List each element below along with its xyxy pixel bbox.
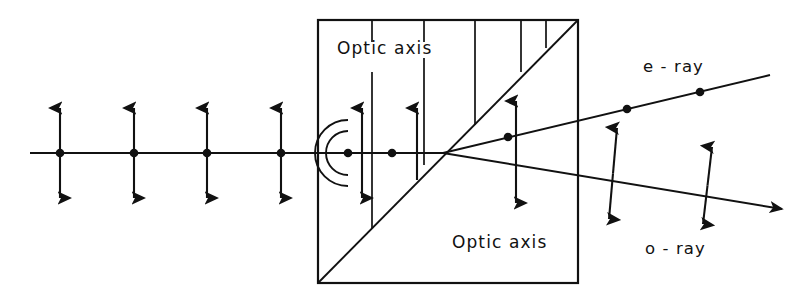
crystal-interior-group bbox=[348, 108, 443, 198]
optic-axis-label-bottom: Optic axis bbox=[452, 232, 547, 252]
o-ray-polarization-arrow-2 bbox=[703, 147, 712, 224]
e-ray-dot-3 bbox=[696, 88, 705, 97]
unpolarized-marker-4 bbox=[277, 108, 286, 198]
double-refraction-figure: Optic axis Optic axis e - ray o - ray bbox=[0, 0, 801, 302]
e-ray-dot-2 bbox=[623, 105, 632, 114]
incident-ray-group bbox=[30, 108, 348, 198]
o-ray-polarization-arrow-2-head-b bbox=[703, 186, 708, 225]
unpolarized-marker-3-dot bbox=[203, 149, 212, 158]
unpolarized-marker-4-dot bbox=[277, 149, 286, 158]
internal-ray-dot bbox=[388, 149, 397, 158]
o-ray-polarization-arrow-1 bbox=[609, 128, 617, 219]
unpolarized-marker-3 bbox=[203, 108, 212, 198]
e-ray-path bbox=[443, 75, 770, 153]
exit-rays-group bbox=[443, 75, 782, 224]
o-ray-label: o - ray bbox=[645, 239, 706, 258]
exit-polarization-arrow-group bbox=[516, 101, 712, 224]
e-ray-label: e - ray bbox=[643, 57, 704, 76]
e-ray-dot-1 bbox=[504, 133, 513, 142]
unpolarized-marker-1-dot bbox=[56, 149, 65, 158]
optic-axis-label-top: Optic axis bbox=[337, 38, 432, 58]
unpolarized-marker-2-dot bbox=[130, 149, 139, 158]
unpolarized-marker-2 bbox=[130, 108, 139, 198]
o-ray-polarization-arrow-2-head-a bbox=[708, 147, 713, 186]
o-ray-polarization-arrow-1-head-a bbox=[613, 128, 617, 174]
figure-canvas: Optic axis Optic axis e - ray o - ray bbox=[0, 0, 801, 302]
unpolarized-marker-1 bbox=[56, 108, 65, 198]
